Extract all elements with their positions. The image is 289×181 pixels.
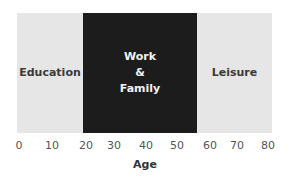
x-tick: 50 <box>170 139 184 152</box>
x-tick: 20 <box>79 139 93 152</box>
segment-leisure: Leisure <box>197 13 272 133</box>
segment-education: Education <box>17 13 83 133</box>
segment-work-family: Work & Family <box>83 13 197 133</box>
segment-label-education: Education <box>19 65 81 81</box>
x-tick: 70 <box>230 139 244 152</box>
x-tick: 30 <box>107 139 121 152</box>
x-tick: 0 <box>16 139 23 152</box>
x-tick: 60 <box>203 139 217 152</box>
x-axis-label: Age <box>133 158 157 171</box>
x-tick: 80 <box>261 139 275 152</box>
segment-label-leisure: Leisure <box>212 65 258 81</box>
segment-label-work-family: Work & Family <box>120 49 160 97</box>
x-tick: 40 <box>139 139 153 152</box>
x-tick: 10 <box>45 139 59 152</box>
